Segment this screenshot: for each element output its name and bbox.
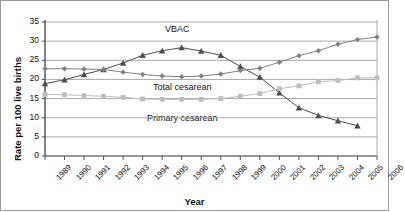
data-point-marker <box>355 75 360 80</box>
gridlines <box>45 22 377 137</box>
data-series <box>42 34 380 128</box>
data-point-marker <box>316 79 321 84</box>
data-point-marker <box>140 97 145 102</box>
series-vbac <box>42 44 361 128</box>
data-point-marker <box>335 42 340 47</box>
data-point-marker <box>257 91 262 96</box>
data-point-marker <box>62 92 67 97</box>
data-point-marker <box>199 97 204 102</box>
data-point-marker <box>179 97 184 102</box>
data-point-marker <box>140 72 145 77</box>
data-point-marker <box>120 69 125 74</box>
data-point-marker <box>315 112 321 118</box>
data-point-marker <box>218 96 223 101</box>
data-point-marker <box>238 94 243 99</box>
data-point-marker <box>81 66 86 71</box>
data-point-marker <box>62 66 67 71</box>
series-line <box>45 48 357 126</box>
data-point-marker <box>277 86 282 91</box>
data-point-marker <box>160 97 165 102</box>
data-point-marker <box>159 73 164 78</box>
data-point-marker <box>374 34 379 39</box>
data-point-marker <box>296 53 301 58</box>
data-point-marker <box>121 95 126 100</box>
data-point-marker <box>43 92 48 97</box>
data-point-marker <box>101 94 106 99</box>
data-point-marker <box>257 66 262 71</box>
plot-area <box>1 1 390 212</box>
series-line <box>45 78 377 99</box>
data-point-marker <box>42 66 47 71</box>
data-point-marker <box>199 73 204 78</box>
data-point-marker <box>179 74 184 79</box>
data-point-marker <box>296 84 301 89</box>
data-point-marker <box>82 93 87 98</box>
data-point-marker <box>336 78 341 83</box>
data-point-marker <box>375 75 380 80</box>
data-point-marker <box>218 71 223 76</box>
series-line <box>45 37 377 77</box>
data-point-marker <box>179 44 185 50</box>
data-point-marker <box>257 74 263 80</box>
data-point-marker <box>316 48 321 53</box>
